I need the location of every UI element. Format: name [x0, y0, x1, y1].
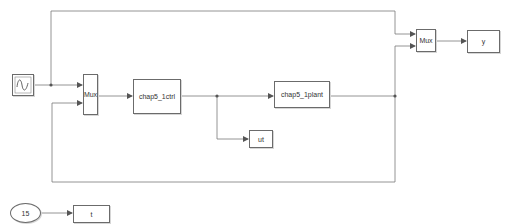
- chap5-1ctrl-label: chap5_1ctrl: [139, 93, 175, 100]
- mux-block-1-label: Mux: [84, 91, 97, 98]
- sine-wave-icon: [14, 76, 32, 94]
- chap5-1ctrl-block[interactable]: chap5_1ctrl: [133, 79, 181, 114]
- chap5-1plant-block[interactable]: chap5_1plant: [274, 81, 330, 108]
- ut-label: ut: [258, 136, 264, 143]
- branch-point: [215, 94, 218, 97]
- constant-value: 15: [22, 210, 30, 217]
- signal-line-plant-to-mux2: [395, 46, 415, 96]
- chap5-1plant-label: chap5_1plant: [281, 91, 323, 98]
- sine-wave-block[interactable]: [12, 74, 34, 96]
- t-block[interactable]: t: [73, 205, 110, 223]
- signal-line-ctrl-to-ut: [217, 96, 248, 139]
- t-label: t: [91, 211, 93, 218]
- ut-block[interactable]: ut: [249, 130, 273, 148]
- branch-point: [49, 83, 52, 86]
- y-label: y: [482, 38, 486, 45]
- mux-block-2-label: Mux: [419, 37, 432, 44]
- signal-line-sine-to-mux2: [51, 11, 415, 85]
- mux-block-2[interactable]: Mux: [416, 29, 436, 52]
- constant-block[interactable]: 15: [10, 203, 41, 223]
- mux-block-1[interactable]: Mux: [83, 74, 98, 115]
- branch-point: [393, 94, 396, 97]
- y-block[interactable]: y: [467, 30, 500, 53]
